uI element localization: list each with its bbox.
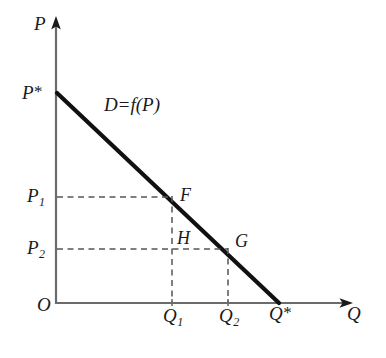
demand-curve-svg — [0, 0, 386, 358]
demand-function-label: D=f(P) — [104, 95, 160, 114]
p1-label: P1 — [27, 186, 45, 208]
q2-subscript: 2 — [233, 315, 240, 329]
q1-base: Q — [163, 305, 177, 326]
origin-label: O — [37, 295, 51, 314]
p1-subscript: 1 — [39, 195, 46, 209]
point-label-f: F — [180, 186, 191, 204]
p-star-label: P* — [22, 83, 43, 102]
demand-label-d: D — [104, 94, 118, 115]
demand-curve-line — [57, 93, 279, 303]
demand-label-equals: = — [118, 94, 131, 115]
p1-base: P — [27, 185, 39, 206]
q-star-base: Q — [269, 303, 283, 324]
p2-label: P2 — [27, 238, 45, 260]
demand-curve-figure: P Q O P* Q* P1 P2 Q1 Q2 D=f(P) F H G — [0, 0, 386, 358]
q-star-label: Q* — [269, 304, 292, 323]
q2-label: Q2 — [219, 306, 239, 328]
q-star-asterisk: * — [283, 303, 292, 322]
demand-label-paren-close: ) — [154, 94, 160, 115]
p2-subscript: 2 — [39, 247, 46, 261]
p-star-base: P — [22, 82, 34, 103]
q-axis-label: Q — [347, 304, 361, 323]
q1-label: Q1 — [163, 306, 183, 328]
q2-base: Q — [219, 305, 233, 326]
q1-subscript: 1 — [177, 315, 184, 329]
p-star-asterisk: * — [34, 82, 43, 101]
point-label-h: H — [177, 229, 190, 247]
p2-base: P — [27, 237, 39, 258]
p-axis-label: P — [34, 14, 46, 33]
demand-label-p: P — [142, 94, 154, 115]
point-label-g: G — [235, 232, 248, 250]
